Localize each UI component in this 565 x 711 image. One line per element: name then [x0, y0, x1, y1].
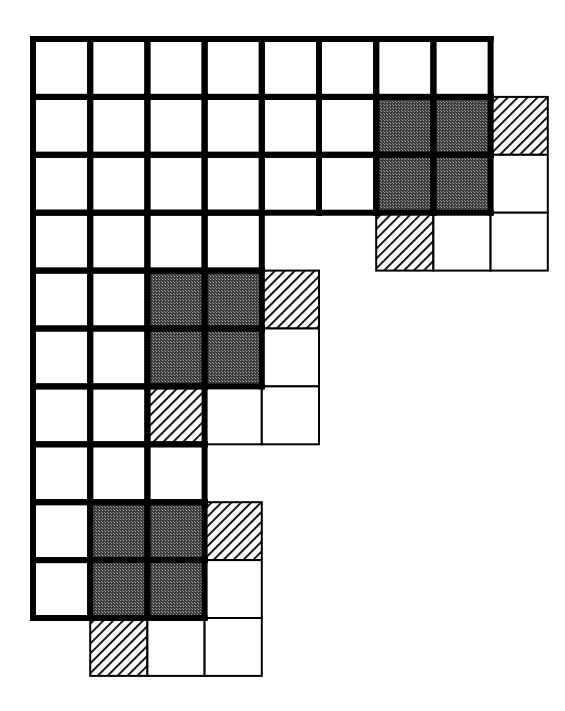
outside-cell	[491, 155, 548, 213]
grid-line	[144, 36, 150, 100]
grid-line	[30, 326, 36, 390]
grid-line	[202, 499, 208, 563]
grid-cell	[147, 97, 204, 155]
grid-cell	[33, 502, 90, 560]
grid-cell	[33, 39, 90, 97]
grid-line	[488, 152, 494, 216]
grid-line	[30, 36, 36, 100]
grid-cell	[90, 213, 147, 271]
grid-line	[87, 326, 93, 390]
grid-line	[30, 557, 36, 621]
grid-line	[87, 36, 150, 42]
grid-cell	[147, 444, 204, 502]
grid-cell	[262, 155, 319, 213]
grid-line	[144, 615, 207, 621]
grid-line	[202, 383, 265, 389]
grid-line	[202, 36, 208, 100]
grid-line	[373, 36, 436, 42]
grid-line	[30, 499, 36, 563]
hatched-cell	[90, 618, 147, 676]
grid-line	[316, 152, 379, 158]
grid-line	[316, 94, 322, 158]
grid-line	[373, 94, 436, 100]
grid-cell	[319, 97, 376, 155]
grid-line	[144, 152, 207, 158]
grid-line	[316, 210, 379, 216]
grid-cell	[205, 155, 262, 213]
grid-line	[30, 499, 93, 505]
grid-cell	[33, 97, 90, 155]
grid-cell	[147, 213, 204, 271]
grid-line	[30, 210, 36, 274]
grid-line	[87, 441, 150, 447]
grid-line	[202, 326, 265, 332]
hatched-cell	[262, 271, 319, 329]
grid-line	[430, 210, 493, 216]
grid-cell	[262, 97, 319, 155]
grid-line	[87, 94, 150, 100]
grid-line	[144, 383, 150, 447]
grid-line	[87, 268, 150, 274]
grid-line	[259, 36, 322, 42]
grid-line	[430, 152, 436, 216]
grid-line	[30, 210, 93, 216]
grid-line	[373, 210, 436, 216]
grid-line	[87, 557, 93, 621]
grid-line	[202, 152, 265, 158]
grid-line	[144, 326, 207, 332]
grid-line	[87, 152, 93, 216]
grid-line	[430, 94, 493, 100]
grid-line	[87, 499, 150, 505]
grid-line	[87, 152, 150, 158]
grid-cell	[33, 560, 90, 618]
grid-line	[430, 152, 493, 158]
grid-cell	[90, 386, 147, 444]
grid-line	[373, 152, 436, 158]
grid-line	[202, 94, 265, 100]
grid-line	[202, 557, 208, 621]
grid-line	[30, 557, 93, 563]
grid-line	[87, 326, 150, 332]
grid-line	[30, 441, 93, 447]
hatched-cell	[491, 97, 548, 155]
grid-line	[373, 152, 379, 216]
grid-cell	[376, 39, 433, 97]
grid-line	[87, 615, 150, 621]
grid-line	[202, 94, 208, 158]
grid-line	[259, 210, 322, 216]
grid-line	[316, 152, 322, 216]
grid-line	[30, 94, 36, 158]
grid-diagram	[0, 0, 565, 711]
grid-line	[30, 615, 93, 621]
outside-cell	[205, 618, 262, 676]
grid-line	[259, 94, 322, 100]
grid-line	[30, 326, 93, 332]
grid-line	[259, 36, 265, 100]
grid-line	[144, 152, 150, 216]
grid-line	[144, 94, 150, 158]
grid-line	[144, 268, 150, 332]
grid-line	[373, 36, 379, 100]
outside-cell	[262, 329, 319, 387]
hatched-cell	[147, 386, 204, 444]
grid-cell	[205, 97, 262, 155]
grid-line	[202, 383, 208, 447]
grid-cell	[147, 155, 204, 213]
grid-line	[87, 557, 150, 563]
grid-line	[316, 94, 379, 100]
grid-line	[202, 210, 208, 274]
grid-line	[30, 94, 93, 100]
grid-line	[87, 210, 93, 274]
grid-line	[316, 36, 379, 42]
hatched-cell	[376, 213, 433, 271]
outside-cell	[262, 386, 319, 444]
grid-line	[144, 210, 150, 274]
grid-line	[202, 326, 208, 390]
grid-cell	[205, 213, 262, 271]
grid-line	[87, 441, 93, 505]
grid-cell	[90, 39, 147, 97]
grid-line	[144, 268, 207, 274]
grid-cell	[90, 444, 147, 502]
grid-line	[30, 152, 93, 158]
grid-cell	[33, 444, 90, 502]
